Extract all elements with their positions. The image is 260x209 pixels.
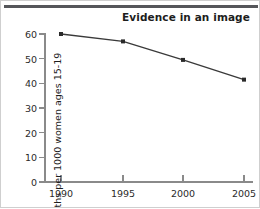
y-tick-label: 60 bbox=[1, 29, 37, 40]
series-polyline bbox=[61, 34, 244, 80]
plot-area: Births per 1000 women ages 15-19 bbox=[45, 34, 252, 182]
y-tick-label: 10 bbox=[1, 152, 37, 163]
data-series-line bbox=[45, 34, 252, 182]
data-point-marker bbox=[181, 58, 185, 62]
y-tick-label: 20 bbox=[1, 127, 37, 138]
y-tick-label: 30 bbox=[1, 103, 37, 114]
x-tick-label: 2000 bbox=[161, 188, 205, 199]
y-tick-label: 0 bbox=[1, 177, 37, 188]
data-point-marker bbox=[121, 39, 125, 43]
chart-title: Evidence in an image bbox=[121, 11, 251, 23]
data-point-marker bbox=[242, 78, 246, 82]
header-rule bbox=[4, 5, 258, 8]
x-tick-label: 1995 bbox=[101, 188, 145, 199]
y-axis-label: Births per 1000 women ages 15-19 bbox=[52, 55, 63, 209]
y-tick-label: 50 bbox=[1, 53, 37, 64]
data-point-marker bbox=[59, 32, 63, 36]
x-tick-label: 2005 bbox=[222, 188, 260, 199]
chart-screenshot: Evidence in an image 0102030405060 19901… bbox=[0, 0, 260, 208]
y-tick-label: 40 bbox=[1, 78, 37, 89]
